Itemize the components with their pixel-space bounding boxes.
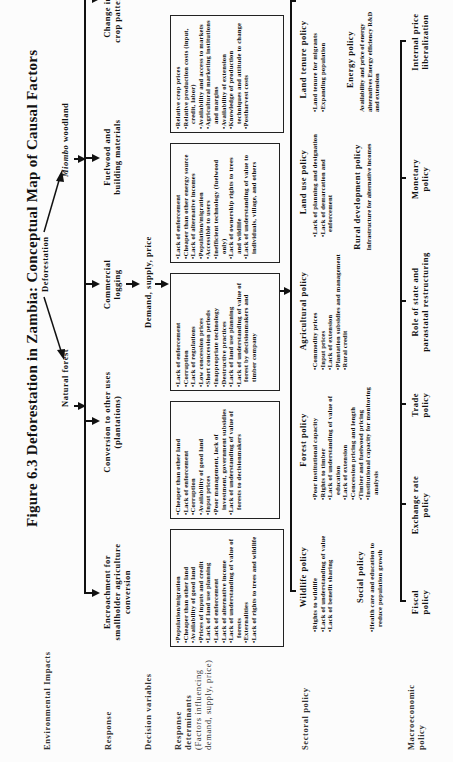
list-item: Poor management, lack of investment, gov… [212, 405, 227, 515]
determinants-box-conversion: Cheaper than other landLack of enforceme… [170, 401, 280, 519]
arrow-up-from-sectoral-icon [284, 287, 292, 295]
determinants-box-crop-pattern: Relative crop pricesRelative production … [170, 15, 284, 133]
list-item: Lack of planning and designation [311, 127, 319, 237]
forest-policy-title: Forest policy [298, 380, 308, 500]
list-item: Institutional capacity for monitoring an… [364, 380, 379, 500]
list-item: Input prices [204, 405, 212, 515]
determinants-list: Cheaper than other landLack of enforceme… [174, 405, 242, 515]
macro-role-of-state: Role of state and parastatal restructuri… [410, 247, 430, 357]
list-item: Agricultural marketing institutions and … [204, 19, 219, 129]
response-commercial-logging: Commercial logging [102, 252, 122, 317]
row-label-sectoral-policy: Sectoral policy [300, 687, 310, 750]
list-item: Availability of extension [220, 19, 228, 129]
list-item: Lack of extension [326, 252, 334, 370]
determinants-box-fuelwood: Lack of enforcementCheaper than other en… [170, 143, 280, 263]
list-item: Lack of understanding of value of forest… [227, 533, 242, 643]
list-item: Inappropriate technology [212, 277, 220, 387]
macro-connector-line [400, 42, 402, 602]
determinants-box-logging: Lack of enforcementCorruptionLack of reg… [170, 273, 280, 391]
arrow-crop-pattern-icon [92, 0, 100, 3]
arrow-encroachment-icon [92, 589, 100, 597]
list-item: Relative production costs (input, credit… [182, 19, 197, 129]
land-tenure-policy: Land tenure policy Land tenure for migra… [298, 7, 326, 112]
land-use-policy-list: Lack of planning and designationLack of … [311, 127, 334, 237]
list-item: Lack of enforcement [182, 405, 190, 515]
list-item: Relative crop prices [174, 19, 182, 129]
forest-policy: Forest policy Poor institutional capacit… [298, 380, 379, 500]
list-item: Lack of understanding of value of forest… [227, 405, 242, 515]
macro-exchange-rate-policy: Exchange rate policy [410, 475, 430, 535]
list-item: Lack of alternative income [220, 533, 228, 643]
list-item: Cheaper than other land [174, 405, 182, 515]
list-item: Land tenure for migrants [311, 7, 319, 112]
rural-development-policy-text: Infrastructure for alternative incomes [365, 127, 373, 267]
list-item: Input prices [319, 252, 327, 370]
list-item: Lack of understanding of value of forest… [235, 277, 258, 387]
energy-policy: Energy policy Availability and price of … [345, 7, 381, 112]
rural-development-policy: Rural development policy Infrastructure … [352, 127, 373, 267]
determinants-list: Lack of enforcementCheaper than other en… [174, 147, 258, 259]
agricultural-policy-list: Commodity pricesInput pricesLack of exte… [311, 252, 349, 370]
agricultural-policy: Agricultural policy Commodity pricesInpu… [298, 252, 349, 370]
list-item: Lack of extension [341, 380, 349, 500]
list-item: Postharvest costs [242, 19, 250, 129]
row-label-response-determinants-title: Response determinants [173, 655, 193, 750]
social-policy: Social policy Health care and education … [355, 522, 383, 632]
list-item: Cheaper than other land [182, 533, 190, 643]
row-label-response-determinants: Response determinants (Factors influenci… [173, 655, 213, 750]
macro-trade-policy: Trade policy [410, 380, 430, 430]
list-item: Lack of rights to trees and wildlife [250, 533, 258, 643]
list-item: Rural credit [341, 252, 349, 370]
list-item: Externalities [242, 533, 250, 643]
wildlife-policy: Wildlife policy Rights to wildlifeLack o… [298, 522, 334, 632]
list-item: Plantation subsidies and management [334, 252, 342, 370]
list-item: Lack of benefit sharing [326, 522, 334, 632]
determinants-list: Relative crop pricesRelative production … [174, 19, 250, 129]
list-item: Rights to timber [319, 380, 327, 500]
land-tenure-policy-title: Land tenure policy [298, 7, 308, 112]
list-item: Destructive practices [220, 277, 228, 387]
list-item: Availability of good land [189, 533, 197, 643]
list-item: Rights to wildlife [311, 522, 319, 632]
list-item: Knowledge of production techniques and a… [227, 19, 242, 129]
response-fuelwood: Fuelwood and building materials [102, 112, 122, 202]
list-item: Lack of regulations [189, 277, 197, 387]
social-policy-list: Health care and education to reduce popu… [368, 522, 383, 632]
determinants-box-encroachment: Population/migrationCheaper than other l… [170, 529, 284, 647]
macro-fiscal-policy: Fiscal policy [410, 577, 430, 627]
determinants-list: Population/migrationCheaper than other l… [174, 533, 258, 643]
social-policy-title: Social policy [355, 522, 365, 632]
list-item: Lack of land use planning [204, 533, 212, 643]
list-item: Lack of ownership rights to trees and wi… [227, 147, 242, 259]
row-label-response-determinants-sub: (Factors influencing demand, supply, pri… [193, 655, 213, 750]
list-item: Commodity prices [311, 252, 319, 370]
land-use-policy-title: Land use policy [298, 127, 308, 237]
list-item: Corruption [182, 277, 190, 387]
row-label-decision-variables: Decision variables [143, 673, 153, 750]
list-item: Lack of land use planning [227, 277, 235, 387]
macro-monetary-policy: Monetary policy [410, 149, 430, 209]
list-item: Corruption [189, 405, 197, 515]
row-label-macroeconomic-policy: Macroeconomic policy [406, 690, 426, 750]
list-item: Lack of understanding of value to indivi… [242, 147, 257, 259]
list-item: Short concession periods [204, 277, 212, 387]
energy-policy-title: Energy policy [345, 7, 355, 112]
figure-page: Figure 6.3 Deforestation in Zambia: Conc… [0, 0, 453, 762]
list-item: Timber and fuelwood pricing [357, 380, 365, 500]
response-encroachment: Encroachment for smallholder agriculture… [102, 537, 132, 647]
energy-policy-text: Availability and price of energy alterna… [358, 7, 381, 112]
list-item: Lack of understanding of value of educat… [326, 380, 341, 500]
list-item: Lack of enforcement [212, 533, 220, 643]
arrow-conversion-icon [92, 417, 100, 425]
row-label-response: Response [103, 711, 113, 750]
list-item: Inefficient technology (fuelwood only) [212, 147, 227, 259]
agricultural-policy-title: Agricultural policy [298, 252, 308, 370]
deforestation-arrows-icon [38, 132, 68, 382]
list-item: Availability of good land [197, 405, 205, 515]
arrow-logging-icon [92, 280, 100, 288]
list-item: Lack of enforcement [174, 147, 182, 259]
wildlife-policy-list: Rights to wildlifeLack of understanding … [311, 522, 334, 632]
list-item: Expanding population [319, 7, 327, 112]
determinants-list: Lack of enforcementCorruptionLack of reg… [174, 277, 258, 387]
rural-development-policy-title: Rural development policy [352, 127, 362, 267]
